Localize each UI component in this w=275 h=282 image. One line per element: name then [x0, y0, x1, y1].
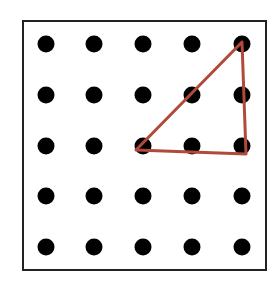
grid-dot [86, 239, 103, 256]
grid-dot [38, 138, 55, 155]
grid-dot [38, 239, 55, 256]
grid-dot [234, 87, 251, 104]
grid-dot [86, 87, 103, 104]
grid-dot [135, 239, 152, 256]
grid-dot [86, 138, 103, 155]
grid-dot [38, 36, 55, 53]
grid-dot [135, 36, 152, 53]
dot-grid [38, 36, 251, 256]
grid-dot [38, 188, 55, 205]
grid-dot [86, 36, 103, 53]
grid-dot [135, 87, 152, 104]
grid-dot [184, 36, 201, 53]
grid-dot [184, 239, 201, 256]
grid-dot [184, 188, 201, 205]
grid-dot [234, 188, 251, 205]
grid-dot [86, 188, 103, 205]
grid-dot [135, 188, 152, 205]
geoboard-diagram [0, 0, 275, 282]
grid-dot [234, 239, 251, 256]
grid-dot [38, 87, 55, 104]
grid-dot [234, 138, 251, 155]
